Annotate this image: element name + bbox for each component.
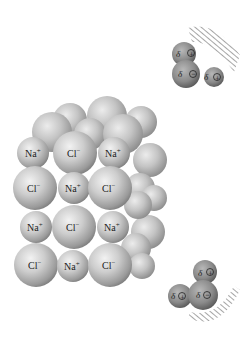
lattice-front-row-3: Na+ Cl− Na+	[20, 205, 129, 249]
ion-chloride: Cl−	[88, 243, 132, 287]
water-molecule-bottom: δ + δ + δ −	[168, 260, 240, 322]
ion-chloride: Cl−	[88, 166, 132, 210]
svg-text:+: +	[208, 269, 213, 276]
ion-chloride: Cl−	[14, 243, 58, 287]
ion-sodium: Na+	[17, 137, 49, 169]
lattice-front-row-4: Cl− Na+ Cl−	[14, 243, 132, 287]
water-molecule-top: δ + δ − δ +	[172, 27, 240, 88]
ion-sodium: Na+	[98, 137, 130, 169]
svg-text:+: +	[215, 74, 220, 81]
ion-sodium: Na+	[57, 250, 89, 282]
svg-text:+: +	[180, 293, 185, 300]
ion-chloride: Cl−	[52, 205, 96, 249]
ion-sodium: Na+	[97, 211, 129, 243]
svg-text:−: −	[205, 291, 210, 298]
ion-sodium: Na+	[20, 211, 52, 243]
nacl-dissolution-diagram: Na+ Cl− Na+ Cl− Na+ Cl− Na+	[0, 0, 251, 348]
ion-chloride: Cl−	[13, 166, 57, 210]
svg-text:+: +	[189, 50, 194, 57]
lattice-front-row-2: Cl− Na+ Cl−	[13, 166, 132, 210]
ion-chloride: Cl−	[53, 131, 97, 175]
ion-sodium: Na+	[58, 172, 90, 204]
svg-text:−: −	[191, 70, 196, 77]
